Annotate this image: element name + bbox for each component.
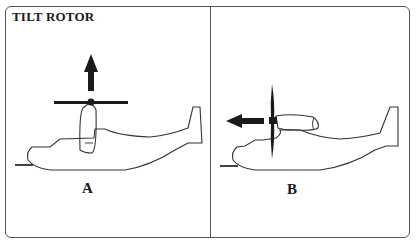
arrow-left-icon	[226, 114, 264, 128]
arrow-up-icon	[84, 54, 98, 91]
panel-a-label: A	[82, 180, 93, 197]
aircraft-b-icon	[233, 107, 399, 170]
panel-b-label: B	[287, 181, 297, 198]
tilt-rotor-illustration	[0, 0, 416, 242]
aircraft-a-icon	[28, 104, 203, 170]
